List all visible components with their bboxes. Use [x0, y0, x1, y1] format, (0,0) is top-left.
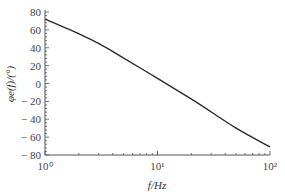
x-axis-ticks: 10⁰10¹10² [38, 151, 278, 172]
axes [45, 10, 270, 155]
y-tick-label: 0 [36, 78, 42, 90]
y-axis-title: φe(f)/(°) [4, 66, 17, 102]
y-tick-label: 20 [30, 60, 42, 72]
y-tick-label: − 20 [21, 95, 41, 107]
y-tick-label: − 40 [21, 113, 41, 125]
x-tick-label: 10² [263, 160, 278, 172]
phase-curve [45, 19, 270, 147]
x-axis-title: f/Hz [148, 179, 167, 191]
x-tick-label: 10¹ [150, 160, 164, 172]
y-tick-label: 60 [30, 24, 42, 36]
y-tick-label: 80 [30, 6, 42, 18]
y-tick-label: 40 [30, 42, 42, 54]
phase-frequency-chart: 806040200− 20− 40− 60− 80 10⁰10¹10² f/Hz… [0, 0, 285, 196]
y-tick-label: − 60 [21, 131, 41, 143]
x-tick-label: 10⁰ [38, 160, 54, 172]
